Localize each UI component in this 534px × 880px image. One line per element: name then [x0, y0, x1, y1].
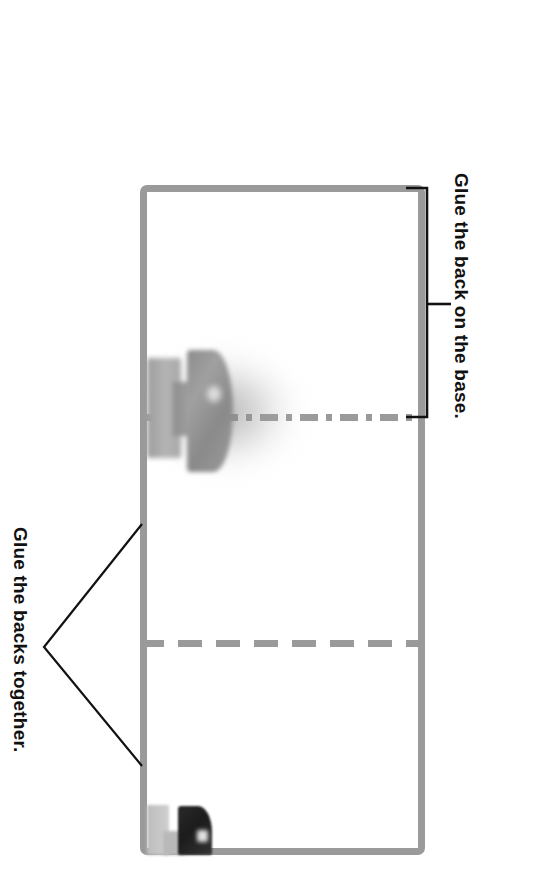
template-sheet: [140, 185, 425, 855]
v-bracket-left: [38, 520, 153, 770]
center-dash-dot-line: [140, 414, 425, 421]
lower-dashed-fold-line: [140, 640, 425, 647]
callout-label-back-on-base: Glue the back on the base.: [450, 173, 472, 419]
callout-label-backs-together: Glue the backs together.: [9, 527, 31, 752]
diagram-canvas: Glue the back on the base. Glue the back…: [0, 0, 534, 880]
